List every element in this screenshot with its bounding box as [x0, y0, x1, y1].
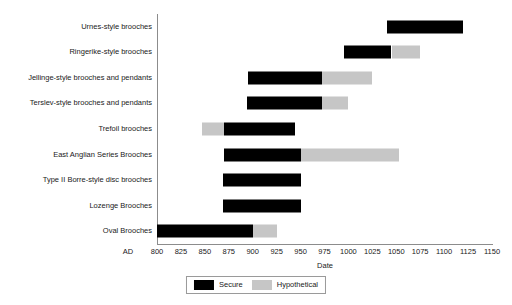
legend-label: Secure [219, 281, 243, 289]
y-axis-category-labels: Urnes-style broochesRingerike-style broo… [0, 14, 152, 244]
x-axis-tick-label: 900 [246, 248, 259, 256]
legend-swatch-secure [194, 280, 214, 290]
legend-label: Hypothetical [277, 281, 318, 289]
y-axis-category-label: Oval Brooches [103, 227, 152, 235]
legend-item: Hypothetical [252, 280, 318, 290]
bar-segment-hypothetical [301, 148, 400, 161]
chart-bar-row [157, 123, 492, 136]
legend-swatch-hypothetical [252, 280, 272, 290]
x-axis-tick-label: 1050 [388, 248, 405, 256]
bar-segment-hypothetical [392, 46, 421, 59]
chart-bar-row [157, 148, 492, 161]
chart-container: Urnes-style broochesRingerike-style broo… [0, 0, 512, 305]
y-axis-category-label: Urnes-style brooches [81, 23, 152, 31]
x-axis-tick-label: 850 [199, 248, 212, 256]
bar-segment-secure [224, 148, 301, 161]
y-axis-category-label: Trefoil brooches [99, 125, 153, 133]
bar-segment-hypothetical [202, 123, 224, 136]
y-axis-category-label: East Anglian Series Brooches [53, 151, 152, 159]
chart-bar-row [157, 46, 492, 59]
x-axis-tick-label: 1025 [364, 248, 381, 256]
chart-bar-row [157, 97, 492, 110]
x-axis-tick-label: 1125 [460, 248, 476, 256]
y-axis-category-label: Terslev-style brooches and pendants [30, 100, 152, 108]
x-axis-era-prefix-label: AD [123, 248, 133, 256]
chart-bar-row [157, 225, 492, 238]
bar-segment-secure [247, 97, 322, 110]
x-axis-tick-label: 950 [294, 248, 307, 256]
x-axis-line [157, 244, 493, 245]
bar-segment-secure [223, 174, 301, 187]
chart-bar-row [157, 174, 492, 187]
legend-item: Secure [194, 280, 243, 290]
y-axis-category-label: Type II Borre-style disc brooches [43, 176, 152, 184]
y-axis-category-label: Jellinge-style brooches and pendants [28, 74, 152, 82]
chart-legend: SecureHypothetical [186, 276, 326, 294]
y-axis-category-label: Ringerike-style brooches [69, 49, 152, 57]
bar-segment-secure [224, 123, 295, 136]
chart-bar-row [157, 71, 492, 84]
bar-segment-secure [344, 46, 392, 59]
x-axis-tick-label: 975 [318, 248, 331, 256]
bar-segment-secure [157, 225, 253, 238]
x-axis-tick-label: 1000 [340, 248, 357, 256]
x-axis-title: Date [157, 262, 493, 270]
x-axis-tick-label: 925 [270, 248, 283, 256]
plot-area [157, 14, 492, 244]
x-axis-tick-label: 825 [175, 248, 188, 256]
y-axis-category-label: Lozenge Brooches [89, 202, 152, 210]
chart-bar-row [157, 199, 492, 212]
x-axis-tick-label: 1075 [412, 248, 429, 256]
bar-segment-secure [223, 199, 301, 212]
bar-segment-hypothetical [322, 71, 373, 84]
bar-segment-secure [387, 20, 464, 33]
bar-segment-hypothetical [253, 225, 277, 238]
bar-segment-hypothetical [322, 97, 349, 110]
bar-segment-secure [248, 71, 322, 84]
x-axis-tick-label: 875 [223, 248, 236, 256]
chart-bar-row [157, 20, 492, 33]
x-axis-tick-label: 800 [151, 248, 164, 256]
x-axis-tick-label: 1150 [484, 248, 500, 256]
x-axis-tick-label: 1100 [436, 248, 452, 256]
